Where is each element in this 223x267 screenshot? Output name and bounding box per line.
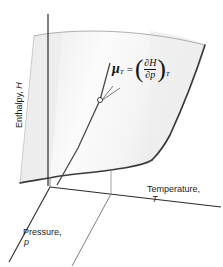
tangent-point-marker bbox=[98, 98, 103, 103]
partial-derivative-fraction: ∂H ∂p bbox=[143, 58, 157, 80]
right-paren: ) bbox=[157, 60, 165, 78]
held-constant-subscript: T bbox=[166, 70, 170, 78]
pressure-grid-line bbox=[72, 194, 111, 266]
fraction-denominator: ∂p bbox=[144, 69, 156, 81]
enthalpy-axis-symbol: H bbox=[14, 82, 24, 89]
pressure-axis-line bbox=[9, 187, 50, 262]
enthalpy-axis-label: Enthalpy, H bbox=[14, 67, 24, 143]
pressure-axis-label: Pressure, p bbox=[23, 227, 62, 248]
thermodynamic-surface-figure: Enthalpy, H Temperature, T Pressure, p μ… bbox=[0, 0, 223, 267]
mu-symbol: μ bbox=[112, 61, 120, 77]
temperature-axis-symbol: T bbox=[152, 194, 200, 204]
left-paren: ( bbox=[135, 60, 143, 78]
mu-subscript: T bbox=[120, 68, 124, 76]
temperature-axis-label-text: Temperature, bbox=[147, 184, 200, 194]
pressure-axis-label-text: Pressure, bbox=[23, 227, 62, 237]
fraction-numerator: ∂H bbox=[143, 58, 157, 69]
surface-shading-right bbox=[150, 31, 205, 160]
mu-formula-annotation: μT = ( ∂H ∂p )T bbox=[112, 58, 170, 80]
enthalpy-axis-label-text: Enthalpy, bbox=[14, 91, 24, 128]
temperature-axis-label: Temperature, T bbox=[147, 184, 200, 205]
pressure-axis-symbol: p bbox=[24, 237, 62, 247]
equals-sign: = bbox=[127, 63, 133, 75]
